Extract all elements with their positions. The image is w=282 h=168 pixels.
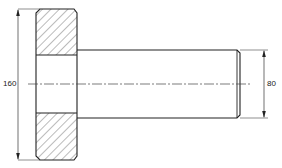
arrow-down-icon [262,111,266,118]
dimension-label-80: 80 [267,80,276,88]
dimension-label-160: 160 [3,80,16,88]
technical-drawing [0,0,282,168]
arrow-up-icon [262,50,266,57]
arrow-up-icon [16,9,20,16]
flange-lower-section [36,113,77,160]
arrow-down-icon [16,153,20,160]
flange-upper-section [36,9,77,55]
